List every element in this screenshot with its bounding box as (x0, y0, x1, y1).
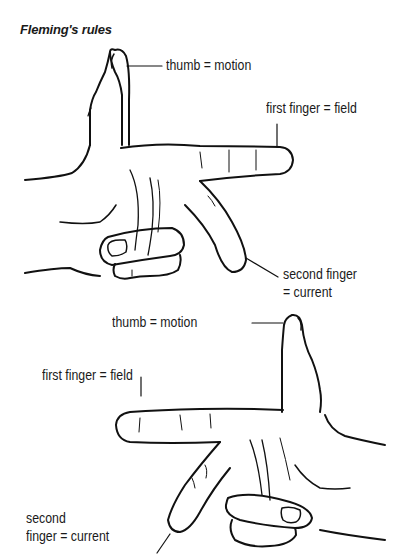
lower-thumb-label: thumb = motion (112, 314, 197, 331)
lower-first-finger-label: first finger = field (42, 367, 133, 384)
lower-second-finger-label-line2: finger = current (26, 528, 109, 545)
lower-second-finger-label-line1: second (26, 510, 66, 527)
upper-second-finger-label-line1: second finger (283, 266, 357, 283)
lower-hand-drawing (116, 315, 385, 553)
upper-hand-drawing (25, 49, 293, 278)
upper-second-finger-label-line2: = current (283, 284, 332, 301)
upper-thumb-label: thumb = motion (166, 57, 251, 74)
upper-first-finger-label: first finger = field (266, 100, 357, 117)
